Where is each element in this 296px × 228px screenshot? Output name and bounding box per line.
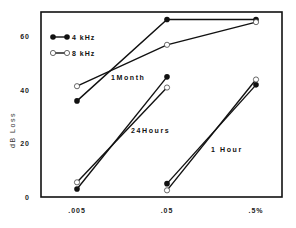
series-line	[77, 88, 167, 183]
group-labels: 1Month24Hours1 Hour	[111, 74, 243, 153]
filled-circle-icon	[164, 74, 170, 80]
y-axis-ticks: 0204060	[20, 33, 30, 200]
series-line	[167, 80, 256, 191]
open-circle-icon	[50, 50, 55, 55]
filled-circle-icon	[74, 98, 80, 104]
x-tick-label: .005	[68, 207, 86, 214]
filled-circle-icon	[253, 82, 259, 88]
filled-circle-icon	[50, 34, 56, 40]
open-circle-icon	[253, 77, 258, 82]
x-tick-label: .5%	[248, 207, 263, 214]
y-axis-label: dB Loss	[9, 112, 16, 148]
open-circle-icon	[64, 50, 69, 55]
legend-label-8khz: 8 kHz	[72, 50, 95, 57]
y-tick-label: 60	[20, 33, 30, 40]
open-circle-icon	[74, 180, 79, 185]
open-circle-icon	[164, 42, 169, 47]
open-circle-icon	[74, 84, 79, 89]
legend: 4 kHz 8 kHz	[50, 34, 95, 57]
legend-item-8khz: 8 kHz	[50, 50, 95, 57]
open-circle-icon	[164, 188, 169, 193]
legend-label-4khz: 4 kHz	[72, 34, 95, 41]
filled-circle-icon	[74, 186, 80, 192]
open-circle-icon	[164, 85, 169, 90]
y-tick-label: 0	[25, 194, 30, 201]
filled-circle-icon	[64, 34, 70, 40]
chart: 0204060 .005.05.5% dB Loss 1Month24Hours…	[0, 0, 296, 228]
filled-circle-icon	[164, 17, 170, 23]
group-label: 1Month	[111, 74, 145, 81]
series-markers	[74, 17, 259, 193]
filled-circle-icon	[164, 181, 170, 187]
y-tick-label: 20	[20, 140, 30, 147]
legend-item-4khz: 4 kHz	[50, 34, 95, 41]
y-tick-label: 40	[20, 87, 30, 94]
group-label: 1 Hour	[211, 146, 243, 153]
x-axis-ticks: .005.05.5%	[68, 207, 263, 214]
group-label: 24Hours	[131, 127, 170, 134]
open-circle-icon	[253, 20, 258, 25]
x-tick-label: .05	[161, 207, 174, 214]
